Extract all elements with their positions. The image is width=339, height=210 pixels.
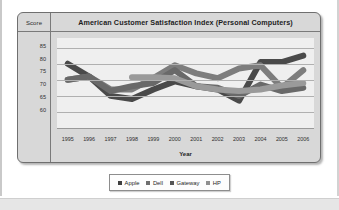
legend-label: Apple bbox=[125, 180, 140, 186]
legend-label: HP bbox=[213, 180, 221, 186]
legend-item-dell[interactable]: Dell bbox=[146, 180, 163, 186]
page-bottom-band bbox=[0, 198, 339, 210]
plot-area bbox=[57, 38, 314, 128]
legend-label: Dell bbox=[153, 180, 163, 186]
chart-title: American Customer Satisfaction Index (Pe… bbox=[51, 13, 320, 32]
x-axis-tick-label: 2002 bbox=[212, 136, 224, 142]
y-axis-tick-label: 80 bbox=[40, 56, 46, 62]
chart-lines bbox=[57, 38, 314, 128]
x-axis-tick-label: 1999 bbox=[147, 136, 159, 142]
gridline bbox=[57, 48, 314, 49]
x-axis-tick-label: 1996 bbox=[83, 136, 95, 142]
legend-item-gateway[interactable]: Gateway bbox=[170, 180, 199, 186]
x-axis-tick-label: 2001 bbox=[190, 136, 202, 142]
chart-header-row: Score American Customer Satisfaction Ind… bbox=[18, 13, 320, 32]
legend-swatch-icon bbox=[206, 181, 210, 185]
y-axis-tick-label: 70 bbox=[40, 81, 46, 87]
chart-frame: Score American Customer Satisfaction Ind… bbox=[17, 12, 321, 163]
gridline bbox=[57, 64, 314, 65]
x-axis-tick-label: 2000 bbox=[169, 136, 181, 142]
plot-region: 1995199619971998199920002001200220032004… bbox=[51, 32, 320, 162]
x-axis-tick-label: 1997 bbox=[105, 136, 117, 142]
y-axis-tick-label: 60 bbox=[40, 107, 46, 113]
y-axis-title-cell: Score bbox=[18, 13, 51, 32]
x-axis-tick-label: 2003 bbox=[233, 136, 245, 142]
chart-legend: AppleDellGatewayHP bbox=[109, 174, 230, 191]
y-axis-tick-label: 75 bbox=[40, 68, 46, 74]
legend-item-apple[interactable]: Apple bbox=[118, 180, 139, 186]
x-axis-tick-label: 2004 bbox=[254, 136, 266, 142]
gridline bbox=[57, 80, 314, 81]
x-axis-tick-label: 1998 bbox=[126, 136, 138, 142]
x-axis-tick-label: 2006 bbox=[297, 136, 309, 142]
y-axis-title: Score bbox=[26, 20, 42, 26]
gridline bbox=[57, 112, 314, 113]
legend-swatch-icon bbox=[118, 181, 122, 185]
y-axis-tick-label: 65 bbox=[40, 94, 46, 100]
gridline bbox=[57, 96, 314, 97]
x-axis-ticks: 1995199619971998199920002001200220032004… bbox=[57, 128, 314, 142]
y-axis-column: 858075706560 bbox=[18, 32, 51, 162]
legend-item-hp[interactable]: HP bbox=[206, 180, 221, 186]
x-axis-tick-label: 1995 bbox=[62, 136, 74, 142]
page-canvas: Score American Customer Satisfaction Ind… bbox=[0, 0, 339, 210]
y-axis-tick-label: 85 bbox=[40, 43, 46, 49]
legend-label: Gateway bbox=[176, 180, 199, 186]
x-axis-tick-label: 2005 bbox=[276, 136, 288, 142]
legend-swatch-icon bbox=[146, 181, 150, 185]
page-left-rule bbox=[0, 0, 2, 196]
x-axis-title: Year bbox=[51, 151, 320, 157]
legend-swatch-icon bbox=[170, 181, 174, 185]
